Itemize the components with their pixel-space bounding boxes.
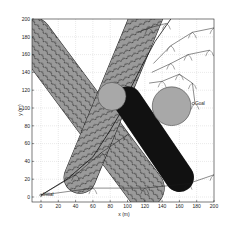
x-tick-label: 60 [90,203,96,209]
y-axis-label: y (m) [17,104,23,116]
y-tick-label: 140 [22,69,31,75]
x-tick-label: 120 [141,203,150,209]
x-tick-label: 180 [193,203,202,209]
y-tick-label: 160 [22,51,31,57]
x-tick-label: 160 [175,203,184,209]
y-tick-label: 20 [24,176,30,182]
circle-center [98,82,126,110]
y-tick-label: 80 [24,123,30,129]
x-tick-label: 140 [158,203,167,209]
y-tick-label: 60 [24,140,30,146]
y-tick-label: 200 [22,16,31,22]
y-tick-label: 40 [24,158,30,164]
x-tick-label: 100 [123,203,132,209]
circle-goal-side [152,87,191,126]
y-tick-label: 180 [22,34,31,40]
x-tick-label: 20 [56,203,62,209]
y-tick-label: 120 [22,87,31,93]
goal-label: Goal [195,101,205,106]
y-tick-label: 0 [27,194,30,200]
x-axis-label: x (m) [118,211,130,217]
x-tick-label: 40 [73,203,79,209]
path-planning-figure: 0204060801001201401601802000204060801001… [0,0,229,233]
x-tick-label: 80 [107,203,113,209]
x-tick-label: 0 [40,203,43,209]
x-tick-label: 200 [210,203,219,209]
initial-label: Initial [43,192,54,197]
